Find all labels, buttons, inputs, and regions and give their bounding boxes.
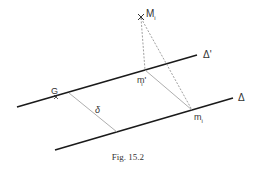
label-delta: Δ: [238, 92, 245, 103]
label-mprime-i: m'i: [137, 75, 146, 87]
label-delta-prime: Δ': [203, 49, 212, 60]
label-Mi: Mi: [146, 8, 156, 21]
line-delta-prime: [17, 55, 197, 107]
figure-caption: Fig. 15.2: [112, 152, 144, 162]
distance-segment: [69, 93, 117, 132]
label-delta-distance: δ: [95, 105, 101, 115]
segment-mprime-to-mi: [145, 70, 192, 110]
line-delta: [55, 98, 233, 150]
segment-Mi-to-mi: [141, 18, 192, 110]
projection-Mi-to-mprime: [141, 18, 145, 70]
label-mi: mi: [194, 112, 203, 124]
label-G: G: [51, 86, 58, 96]
figure-canvas: Mi Δ' Δ G m'i mi δ Fig. 15.2: [0, 0, 260, 173]
